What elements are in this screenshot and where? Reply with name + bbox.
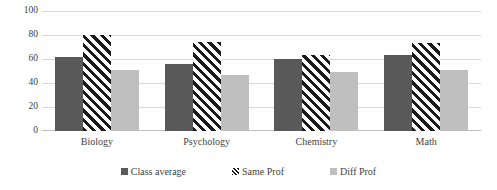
x-tick-label-biology: Biology [42,136,152,148]
bar-groups [42,11,481,131]
legend-entry-class-average: Class average [121,166,186,177]
bar-class-average-psychology [165,64,193,131]
bar-class-average-chemistry [274,59,302,131]
bar-chart: 100 80 60 40 20 0 [0,0,497,190]
bar-same-prof-psychology [193,42,221,131]
legend-label-same-prof: Same Prof [242,166,284,177]
bar-same-prof-math [412,43,440,131]
bar-class-average-math [384,55,412,131]
chart-legend: Class average Same Prof Diff Prof [0,166,497,177]
y-tick-label: 20 [4,102,38,112]
legend-entry-same-prof: Same Prof [232,166,284,177]
y-tick-label: 0 [4,126,38,136]
bar-diff-prof-chemistry [330,72,358,131]
bar-group-biology [42,11,152,131]
bar-diff-prof-biology [111,70,139,131]
legend-label-class-average: Class average [131,166,186,177]
y-tick-label: 60 [4,54,38,64]
y-tick-label: 100 [4,6,38,16]
bar-group-math [371,11,481,131]
bar-same-prof-biology [83,35,111,131]
bar-group-psychology [152,11,262,131]
bar-same-prof-chemistry [302,55,330,131]
bar-group-chemistry [262,11,372,131]
y-axis: 100 80 60 40 20 0 [0,11,38,131]
bar-diff-prof-math [440,70,468,131]
bar-class-average-biology [55,57,83,131]
x-tick-label-chemistry: Chemistry [262,136,372,148]
legend-entry-diff-prof: Diff Prof [330,166,376,177]
legend-swatch-icon-class-average [121,168,128,175]
legend-swatch-icon-same-prof [232,168,239,175]
y-tick-label: 40 [4,78,38,88]
legend-label-diff-prof: Diff Prof [340,166,376,177]
x-tick-label-math: Math [371,136,481,148]
x-tick-label-psychology: Psychology [152,136,262,148]
y-tick-label: 80 [4,30,38,40]
legend-swatch-icon-diff-prof [330,168,337,175]
bar-diff-prof-psychology [221,75,249,131]
x-axis: Biology Psychology Chemistry Math [42,136,481,148]
